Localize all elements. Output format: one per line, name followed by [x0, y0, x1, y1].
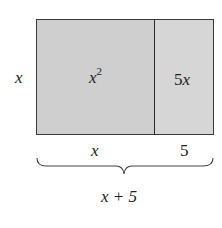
total-width-label: x + 5 — [101, 188, 137, 205]
